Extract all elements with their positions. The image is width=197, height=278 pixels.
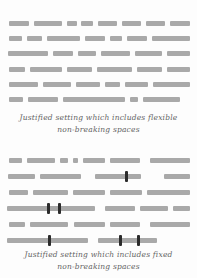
word-bar (47, 36, 80, 41)
word-bar (30, 222, 68, 227)
word-bar (98, 238, 157, 243)
text-line (0, 82, 197, 87)
text-line (0, 158, 197, 163)
word-bar (9, 82, 38, 87)
caption-flexible: Justified setting which includes flexibl… (0, 112, 197, 136)
word-bar (76, 82, 100, 87)
word-bar (78, 51, 96, 56)
word-bar (173, 206, 190, 211)
word-bar (9, 190, 28, 195)
word-bar (153, 82, 190, 87)
word-bar (143, 97, 180, 102)
word-bar (98, 21, 117, 26)
word-bar (167, 67, 190, 72)
caption-fixed-line-2: non-breaking spaces (0, 261, 197, 273)
word-bar (63, 97, 125, 102)
word-bar (27, 36, 42, 41)
word-bar (105, 206, 135, 211)
word-bar (8, 51, 48, 56)
word-bar (74, 222, 105, 227)
text-line (0, 51, 197, 56)
text-line (0, 67, 197, 72)
caption-fixed-line-1: Justified setting which includes fixed (0, 249, 197, 261)
word-bar (9, 21, 29, 26)
fixed-space-marker (125, 171, 128, 182)
word-bar (40, 174, 81, 179)
word-bar (101, 51, 130, 56)
word-bar (9, 97, 23, 102)
text-line (0, 174, 197, 179)
fixed-space-marker (137, 235, 140, 246)
word-bar (60, 158, 68, 163)
word-bar (83, 158, 105, 163)
word-bar (30, 67, 62, 72)
word-bar (110, 158, 140, 163)
word-bar (140, 206, 168, 211)
word-bar (8, 174, 35, 179)
word-bar (9, 158, 22, 163)
word-bar (135, 51, 162, 56)
fixed-space-marker (48, 235, 51, 246)
text-line (0, 21, 197, 26)
word-bar (73, 190, 105, 195)
word-bar (9, 222, 25, 227)
word-bar (81, 21, 93, 26)
word-bar (122, 21, 141, 26)
word-bar (167, 51, 190, 56)
word-bar (164, 174, 190, 179)
text-line (0, 97, 197, 102)
text-line (0, 222, 197, 227)
word-bar (105, 82, 120, 87)
word-bar (127, 36, 147, 41)
word-bar (28, 97, 58, 102)
word-bar (110, 36, 122, 41)
word-bar (53, 51, 73, 56)
fixed-space-marker (119, 235, 122, 246)
word-bar (130, 97, 138, 102)
word-bar (33, 190, 68, 195)
word-bar (34, 21, 62, 26)
word-bar (97, 67, 132, 72)
text-line (0, 190, 197, 195)
word-bar (27, 158, 55, 163)
word-bar (73, 158, 78, 163)
word-bar (170, 21, 190, 26)
word-bar (146, 21, 165, 26)
word-bar (125, 82, 148, 87)
text-line (0, 36, 197, 41)
typography-figure: Justified setting which includes flexibl… (0, 0, 197, 278)
caption-flexible-line-2: non-breaking spaces (0, 124, 197, 136)
word-bar (9, 67, 25, 72)
text-line (0, 238, 197, 243)
word-bar (9, 36, 22, 41)
word-bar (67, 21, 77, 26)
caption-fixed: Justified setting which includes fixed n… (0, 249, 197, 273)
word-bar (95, 174, 141, 179)
word-bar (147, 190, 190, 195)
fixed-space-marker (47, 203, 50, 214)
caption-flexible-line-1: Justified setting which includes flexibl… (0, 112, 197, 124)
word-bar (7, 206, 95, 211)
word-bar (110, 190, 142, 195)
word-bar (137, 67, 162, 72)
word-bar (150, 158, 190, 163)
word-bar (152, 36, 190, 41)
word-bar (85, 36, 105, 41)
word-bar (67, 67, 92, 72)
word-bar (43, 82, 71, 87)
text-line (0, 206, 197, 211)
word-bar (150, 222, 190, 227)
fixed-space-marker (58, 203, 61, 214)
word-bar (110, 222, 140, 227)
